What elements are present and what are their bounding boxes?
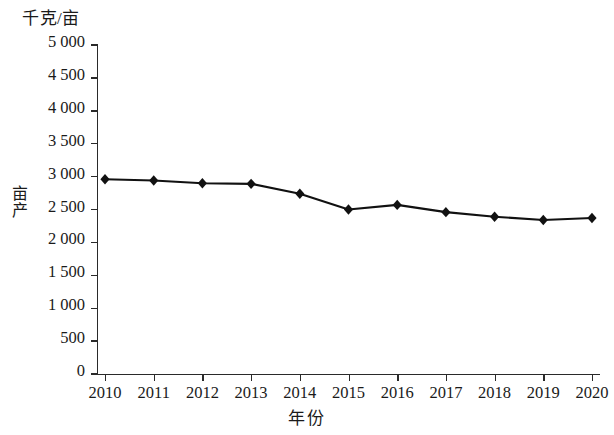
data-point-marker [393,200,402,210]
data-series-layer [0,0,614,435]
data-point-marker [344,204,353,214]
data-point-marker [490,212,499,222]
data-point-marker [247,179,256,189]
data-point-marker [100,174,109,184]
data-point-marker [149,175,158,185]
data-point-marker [441,207,450,217]
data-point-marker [198,178,207,188]
x-axis-title: 年份 [0,404,614,429]
data-point-marker [295,189,304,199]
chart-figure: 千克/亩 亩产 05001 0001 5002 0002 5003 0003 5… [0,0,614,435]
data-point-marker [539,215,548,225]
data-point-marker [587,213,596,223]
